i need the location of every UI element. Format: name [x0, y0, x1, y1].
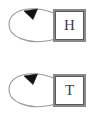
- state-label-h: H: [64, 18, 75, 33]
- state-node-h-inner-border: H: [55, 11, 84, 40]
- state-node-t[interactable]: T: [53, 74, 86, 107]
- state-group-h: H: [0, 0, 96, 60]
- state-diagram: H T: [0, 0, 96, 127]
- arrowhead-h: [24, 9, 38, 20]
- state-label-t: T: [65, 83, 74, 98]
- state-node-t-inner-border: T: [55, 76, 84, 105]
- state-node-h[interactable]: H: [53, 9, 86, 42]
- arrowhead-t: [24, 74, 38, 85]
- state-group-t: T: [0, 65, 96, 127]
